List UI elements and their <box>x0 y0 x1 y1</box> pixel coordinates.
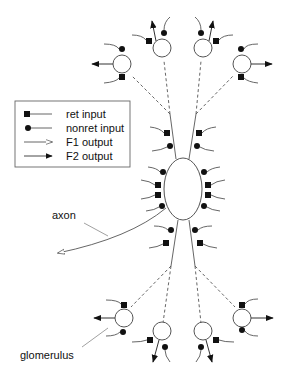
glomerulus-upper-midright <box>194 17 233 57</box>
glomerulus-upper-midleft <box>132 17 171 57</box>
svg-text:F2 output: F2 output <box>66 150 112 162</box>
glomerulus-lower-midleft <box>132 322 171 362</box>
upper-trunk-synapses <box>150 127 216 151</box>
filled-circle-icon <box>25 125 31 131</box>
glomerulus-lower-right <box>233 299 273 336</box>
legend: ret input nonret input F1 output F2 outp… <box>15 101 130 167</box>
upper-dashed-branches <box>132 61 234 114</box>
glomerulus-lower-left <box>94 300 133 336</box>
filled-square-icon <box>24 111 30 117</box>
glomerulus-label: glomerulus <box>20 349 74 361</box>
soma-synapses-left <box>141 167 166 211</box>
svg-text:F1 output: F1 output <box>66 136 112 148</box>
glomerulus-upper-right <box>233 44 272 83</box>
soma-synapses-right <box>201 167 225 211</box>
svg-text:ret input: ret input <box>66 108 106 120</box>
lower-dendrites <box>171 220 195 266</box>
glomerulus-upper-left <box>92 44 131 83</box>
lower-dashed-branches <box>131 266 235 323</box>
upper-dendrites <box>170 114 196 159</box>
neuron-diagram: axon glomerulus ret input nonret input F… <box>0 0 288 374</box>
axon-label: axon <box>52 209 76 221</box>
glomerulus-label-group: glomerulus <box>20 328 108 361</box>
svg-text:nonret input: nonret input <box>66 122 124 134</box>
axon-label-group: axon <box>52 209 108 236</box>
cell-body <box>164 158 202 220</box>
lower-trunk-synapses <box>149 226 217 248</box>
glomerulus-lower-midright <box>194 322 234 362</box>
